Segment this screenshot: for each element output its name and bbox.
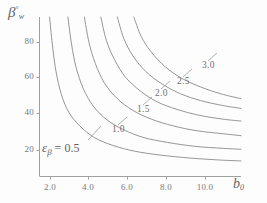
y-axis-title-subscript: w <box>19 12 24 21</box>
epsilon-value: = 0.5 <box>52 141 80 155</box>
contour-curve <box>84 17 241 136</box>
contour-label: 1.5 <box>137 104 150 114</box>
x-tick-label: 2.0 <box>37 182 63 192</box>
plot-canvas <box>0 0 267 203</box>
y-tick-label: 60 <box>12 71 34 81</box>
x-axis-title-subscript: 0 <box>240 183 244 192</box>
y-tick-label: 20 <box>12 144 34 154</box>
contour-curve <box>68 17 241 149</box>
tick-marks <box>37 43 206 180</box>
y-axis-title: β°w <box>8 4 24 21</box>
x-tick-label: 6.0 <box>114 182 140 192</box>
x-tick-label: 10.0 <box>192 182 218 192</box>
contour-curve <box>134 17 241 99</box>
contour-chart-figure: β°w b0 20406080 2.04.06.08.010.0 1.01.52… <box>0 0 267 203</box>
contour-label: 2.0 <box>155 88 168 98</box>
contour-label: 1.0 <box>112 124 125 134</box>
leader-lines <box>88 53 217 140</box>
y-tick-label: 40 <box>12 107 34 117</box>
epsilon-beta-annotation: εβ = 0.5 <box>42 140 79 157</box>
x-axis-title-symbol: b <box>233 176 240 191</box>
x-axis-title: b0 <box>233 176 244 192</box>
x-tick-label: 4.0 <box>75 182 101 192</box>
contour-label: 3.0 <box>202 60 215 70</box>
y-tick-label: 80 <box>12 36 34 46</box>
x-tick-label: 8.0 <box>153 182 179 192</box>
contour-label: 2.5 <box>177 76 190 86</box>
